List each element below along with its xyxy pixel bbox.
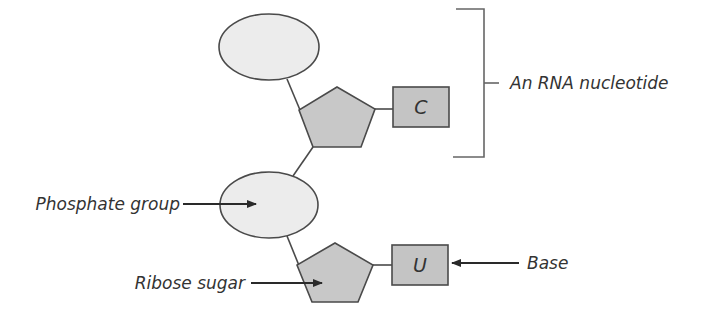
base-label: Base — [527, 253, 568, 273]
bond-phosphate2-sugar2 — [287, 236, 300, 268]
base-2-letter: U — [413, 254, 427, 276]
bond-sugar1-phosphate2 — [293, 147, 313, 176]
sugar-label: Ribose sugar — [135, 273, 246, 293]
base-1-letter: C — [414, 96, 428, 118]
rna-diagram: C U An RNA nucleotide Phosphate group Ri… — [0, 0, 713, 310]
bracket-label: An RNA nucleotide — [509, 73, 669, 93]
ribose-sugar-1 — [299, 87, 375, 147]
phosphate-group-1 — [219, 14, 319, 80]
phosphate-label: Phosphate group — [35, 194, 180, 214]
ribose-sugar-2 — [297, 243, 373, 302]
nucleotide-bracket — [453, 9, 499, 157]
bond-phosphate1-sugar1 — [287, 79, 300, 110]
